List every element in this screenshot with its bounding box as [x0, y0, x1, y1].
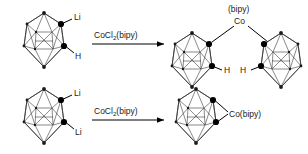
top-reactant-label-li: Li — [74, 12, 81, 22]
product-metal-co: Co — [234, 16, 245, 26]
bottom-reagent-text: CoCl2(bipy) — [94, 106, 138, 117]
reaction-scheme-diagram: Li H CoCl2(bipy) (bipy) Co H H — [0, 0, 308, 154]
top-product-right-h: H — [240, 65, 246, 75]
bottom-product-carbon-lower — [213, 119, 219, 125]
bond-right-cage-to-h — [251, 67, 259, 70]
top-product-right-cage — [251, 31, 302, 89]
scheme-canvas: Li H CoCl2(bipy) (bipy) Co H H — [0, 0, 308, 154]
bottom-reactant-label-li-lower: Li — [75, 127, 82, 137]
bond-co-to-right-cage — [248, 26, 268, 42]
bottom-product-cage — [175, 87, 228, 145]
bottom-reactant-label-li-upper: Li — [74, 88, 81, 98]
bottom-product-label-cobipy: Co(bipy) — [229, 109, 261, 119]
top-reactant-cage — [23, 11, 74, 69]
bond-to-li-upper — [64, 95, 73, 99]
bond-to-li — [64, 19, 73, 23]
top-reagent-tail: (bipy) — [116, 30, 137, 40]
bond-to-h — [67, 47, 75, 53]
bottom-product-carbon-upper — [210, 97, 216, 103]
top-product-left-h: H — [224, 65, 230, 75]
arrow-head-icon — [157, 117, 164, 123]
product-ligand-bipy: (bipy) — [228, 4, 249, 14]
right-cage-carbon-lower — [258, 63, 264, 69]
left-cage-carbon-upper — [206, 41, 212, 47]
top-reaction-arrow — [92, 41, 164, 47]
bond-left-cage-to-h — [215, 67, 223, 70]
bottom-reactant-cage — [23, 87, 74, 145]
bottom-reagent-tail: (bipy) — [116, 106, 137, 116]
bottom-reagent-main: CoCl — [94, 106, 113, 116]
bond-co-to-left-cage — [212, 26, 234, 42]
bond-upper-to-co — [216, 101, 229, 112]
bond-to-li-lower — [67, 123, 75, 129]
bottom-reactant-carbon-lower — [61, 119, 67, 125]
top-reactant-label-h: H — [75, 51, 81, 61]
top-reactant-carbon-lower — [61, 43, 67, 49]
bond-lower-to-co — [219, 114, 229, 121]
arrow-head-icon — [157, 41, 164, 47]
top-reactant-carbon-upper — [58, 21, 64, 27]
top-reagent-main: CoCl — [94, 30, 113, 40]
right-cage-carbon-upper — [261, 41, 267, 47]
left-cage-carbon-lower — [209, 63, 215, 69]
bottom-reaction-arrow — [92, 117, 164, 123]
bottom-reactant-carbon-upper — [58, 97, 64, 103]
top-reagent-text: CoCl2(bipy) — [94, 30, 138, 41]
